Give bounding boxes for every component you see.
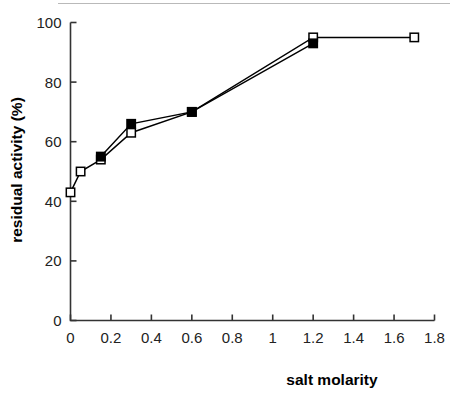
x-axis-tick-label: 0.4 [141, 329, 162, 346]
data-point-open-square [66, 188, 74, 196]
series-line-open-square-series [71, 37, 415, 192]
line-chart-svg: 00.20.40.60.811.21.41.61.8 020406080100 … [0, 0, 455, 401]
data-series-group [66, 33, 418, 196]
axis-spines [71, 23, 435, 321]
data-point-filled-square [97, 152, 105, 160]
x-axis-tick-labels-group: 00.20.40.60.811.21.41.61.8 [66, 329, 445, 346]
data-point-open-square [410, 33, 418, 41]
x-axis-title: salt molarity [286, 371, 378, 388]
data-point-filled-square [309, 39, 317, 47]
data-point-open-square [76, 167, 84, 175]
x-axis-tick-label: 1.6 [384, 329, 405, 346]
x-axis-tick-label: 0 [66, 329, 74, 346]
y-axis-tick-label: 40 [45, 193, 62, 210]
y-axis-tick-label: 100 [36, 14, 61, 31]
axes-group [71, 23, 435, 321]
y-axis-title: residual activity (%) [8, 97, 25, 243]
y-axis-tick-label: 60 [45, 133, 62, 150]
x-axis-tick-label: 1 [269, 329, 277, 346]
y-axis-tick-labels-group: 020406080100 [36, 14, 61, 329]
x-axis-ticks-group [71, 315, 435, 321]
x-axis-tick-label: 0.2 [101, 329, 122, 346]
chart-figure: 00.20.40.60.811.21.41.61.8 020406080100 … [0, 0, 455, 401]
data-point-filled-square [188, 108, 196, 116]
x-axis-tick-label: 1.2 [303, 329, 324, 346]
data-point-filled-square [127, 120, 135, 128]
y-axis-tick-label: 20 [45, 252, 62, 269]
series-line-filled-square-series [101, 43, 313, 156]
x-axis-tick-label: 0.6 [181, 329, 202, 346]
y-axis-tick-label: 0 [53, 312, 61, 329]
data-point-open-square [127, 129, 135, 137]
x-axis-tick-label: 1.4 [343, 329, 364, 346]
x-axis-tick-label: 1.8 [424, 329, 445, 346]
y-axis-ticks-group [71, 23, 77, 321]
x-axis-tick-label: 0.8 [222, 329, 243, 346]
y-axis-tick-label: 80 [45, 74, 62, 91]
